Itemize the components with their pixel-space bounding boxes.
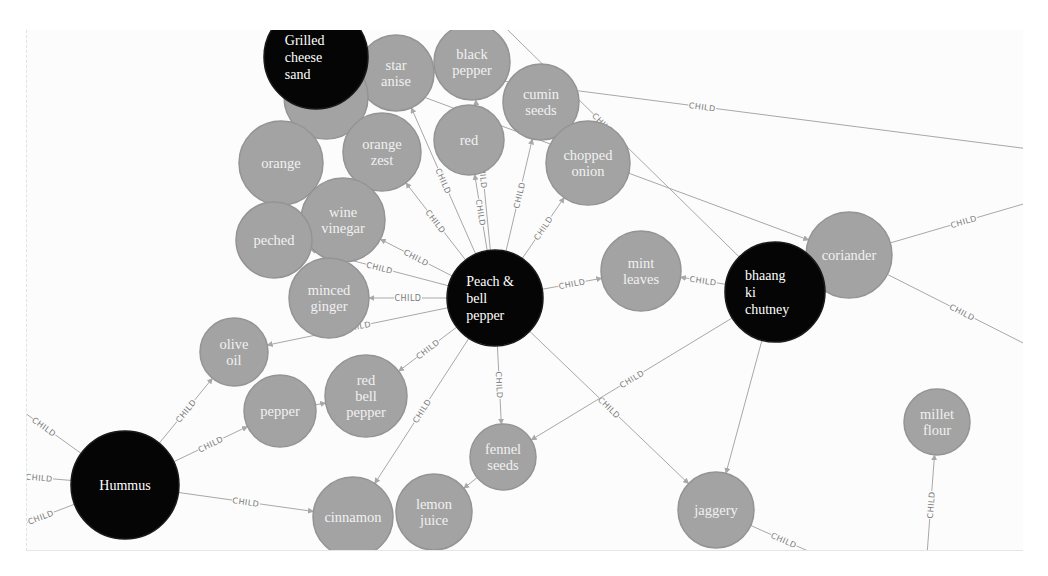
edge-peach-fennel_seeds[interactable]: CHILD bbox=[494, 346, 505, 424]
node-label: peched bbox=[253, 232, 295, 248]
edge-peach-chopped_onion[interactable]: CHILD bbox=[522, 198, 564, 259]
edge-label: CHILD bbox=[926, 491, 937, 519]
edge-label: CHILD bbox=[27, 509, 55, 527]
edge-fennel_seeds-lemon_juice[interactable] bbox=[464, 478, 477, 489]
node-label: red bbox=[460, 132, 479, 148]
node-millet-flour[interactable]: milletflour bbox=[904, 389, 970, 455]
edge-pepper-red_bell_pepper[interactable] bbox=[315, 403, 325, 405]
dish-node-circle[interactable] bbox=[725, 242, 825, 342]
edge-bhaang-jaggery[interactable] bbox=[726, 340, 762, 473]
node-olive-oil[interactable]: oliveoil bbox=[200, 318, 268, 386]
node-label: cinnamon bbox=[324, 509, 382, 525]
node-cinnamon[interactable]: cinnamon bbox=[313, 477, 393, 550]
edge-peach-mint_leaves[interactable]: CHILD bbox=[542, 276, 601, 291]
edge-hummus-left_offscreen_1[interactable]: CHILD bbox=[27, 400, 81, 453]
node-peched[interactable]: peched bbox=[236, 202, 312, 278]
edge-label: CHILD bbox=[512, 181, 527, 209]
node-black-pepper[interactable]: blackpepper bbox=[434, 30, 510, 100]
edge-label: CHILD bbox=[596, 395, 622, 420]
node-label: mintleaves bbox=[623, 255, 660, 287]
node-peach[interactable]: Peach &bellpepper bbox=[447, 250, 543, 346]
edge-label: CHILD bbox=[948, 303, 976, 323]
edge-label: CHILD bbox=[411, 397, 433, 425]
node-label: Hummus bbox=[99, 478, 150, 493]
edge-label: CHILD bbox=[30, 416, 57, 439]
node-label: coriander bbox=[822, 247, 877, 263]
node-label: jaggery bbox=[693, 502, 738, 518]
node-label: pepper bbox=[260, 403, 300, 419]
edge-peach-red_bell_pepper[interactable]: CHILD bbox=[399, 327, 457, 371]
node-mint-leaves[interactable]: mintleaves bbox=[601, 231, 681, 311]
graph-svg[interactable]: CHILDCHILDCHILDCHILDCHILDCHILDCHILDCHILD… bbox=[27, 30, 1023, 550]
edge-coriander-right_offscreen_2[interactable]: CHILD bbox=[890, 200, 1023, 243]
node-label: fennelseeds bbox=[485, 441, 521, 473]
edge-label: CHILD bbox=[494, 371, 504, 398]
edge-label: CHILD bbox=[365, 260, 393, 276]
dish-node-circle[interactable] bbox=[447, 250, 543, 346]
edge-label: CHILD bbox=[532, 215, 555, 242]
edge-bhaang-fennel_seeds[interactable]: CHILD bbox=[531, 318, 732, 440]
node-red-bell-pepper[interactable]: redbellpepper bbox=[325, 355, 407, 437]
edge-bottom_offscreen_2-millet_flour[interactable]: CHILD bbox=[925, 455, 937, 550]
edge-hummus-left_offscreen_3[interactable]: CHILD bbox=[27, 504, 75, 530]
edge-peach-jaggery[interactable]: CHILD bbox=[530, 331, 689, 483]
edge-hummus-pepper[interactable]: CHILD bbox=[174, 427, 248, 462]
node-chopped-onion[interactable]: choppedonion bbox=[546, 121, 630, 205]
node-label: cuminseeds bbox=[523, 86, 560, 118]
edge-label: CHILD bbox=[232, 496, 260, 509]
edge-label: CHILD bbox=[197, 435, 225, 455]
nodes-layer: staraniseblackpepperdovecuminseedsorange… bbox=[71, 30, 970, 550]
edge-peach-minced_ginger[interactable]: CHILD bbox=[369, 293, 447, 303]
edge-label: CHILD bbox=[769, 531, 797, 550]
node-star-anise[interactable]: staranise bbox=[358, 35, 434, 111]
edge-label: CHILD bbox=[433, 167, 452, 195]
node-label: lemonjuice bbox=[416, 496, 453, 528]
edge-line bbox=[27, 400, 81, 453]
edge-peach-cumin_seeds[interactable]: CHILD bbox=[506, 139, 532, 251]
edge-hummus-cinnamon[interactable]: CHILD bbox=[178, 493, 313, 512]
node-jaggery[interactable]: jaggery bbox=[678, 472, 754, 548]
node-fennel-seeds[interactable]: fennelseeds bbox=[470, 424, 536, 490]
node-label: orange bbox=[261, 155, 300, 171]
node-label: staranise bbox=[381, 57, 411, 89]
node-label: mincedginger bbox=[308, 282, 351, 314]
edge-label: CHILD bbox=[174, 398, 198, 425]
edge-line bbox=[315, 403, 325, 405]
edge-bhaang-mint_leaves[interactable]: CHILD bbox=[681, 274, 726, 288]
node-label: blackpepper bbox=[452, 46, 492, 78]
edge-label: CHILD bbox=[402, 248, 430, 268]
edge-label: CHILD bbox=[689, 275, 717, 288]
node-lemon-juice[interactable]: lemonjuice bbox=[396, 474, 472, 550]
edge-label: CHILD bbox=[688, 101, 716, 113]
edge-hummus-left_offscreen_2[interactable]: CHILD bbox=[27, 472, 71, 484]
node-minced-ginger[interactable]: mincedginger bbox=[289, 258, 369, 338]
node-wine-vinegar[interactable]: winevinegar bbox=[301, 178, 385, 262]
edge-label: CHILD bbox=[424, 208, 448, 235]
edge-label: CHILD bbox=[394, 294, 421, 303]
graph-canvas[interactable]: CHILDCHILDCHILDCHILDCHILDCHILDCHILDCHILD… bbox=[26, 30, 1023, 551]
edge-label: CHILD bbox=[558, 277, 586, 291]
edge-label: CHILD bbox=[474, 199, 487, 227]
edge-hummus-olive_oil[interactable]: CHILD bbox=[159, 378, 212, 443]
edge-jaggery-bottom_offscreen[interactable]: CHILD bbox=[751, 525, 817, 550]
edge-coriander-right_offscreen_3[interactable]: CHILD bbox=[887, 274, 1023, 350]
edge-label: CHILD bbox=[415, 338, 442, 362]
node-bhaang[interactable]: bhaangkichutney bbox=[725, 242, 825, 342]
edge-line bbox=[726, 340, 762, 473]
edge-peach-orange_zest[interactable]: CHILD bbox=[406, 183, 466, 260]
edge-label: CHILD bbox=[950, 214, 979, 230]
node-label: milletflour bbox=[920, 406, 954, 438]
edge-label: CHILD bbox=[618, 368, 646, 390]
node-red[interactable]: red bbox=[434, 105, 504, 175]
edge-label: CHILD bbox=[27, 473, 53, 484]
node-hummus[interactable]: Hummus bbox=[71, 431, 179, 539]
edge-line bbox=[464, 478, 477, 489]
node-pepper[interactable]: pepper bbox=[244, 375, 316, 447]
